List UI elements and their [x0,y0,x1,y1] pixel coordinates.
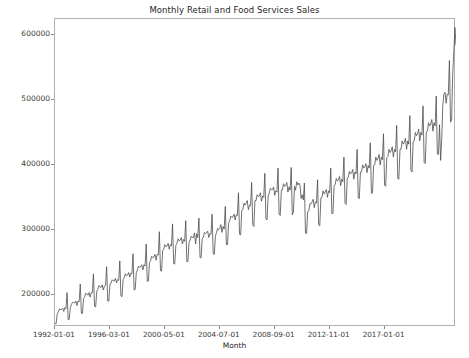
plot-area [54,18,455,326]
y-axis-tick-label: 200000 [8,289,50,298]
x-axis-tick-mark [329,326,330,329]
y-axis-label: $MM Sales [0,139,1,179]
y-axis-tick-mark [51,294,54,295]
y-axis-tick-label: 500000 [8,94,50,103]
chart-title: Monthly Retail and Food Services Sales [0,5,469,15]
x-axis-tick-mark [274,326,275,329]
x-axis-tick-mark [164,326,165,329]
x-axis-label: Month [0,341,469,350]
series-line-chart [55,19,456,327]
y-axis-tick-label: 600000 [8,29,50,38]
x-axis-tick-mark [384,326,385,329]
series-line-retail-sales [55,27,456,323]
x-axis-tick-mark [219,326,220,329]
y-axis-tick-mark [51,229,54,230]
chart-figure: Monthly Retail and Food Services Sales $… [0,0,469,358]
y-axis-tick-label: 300000 [8,224,50,233]
x-axis-tick-label: 2017-01-01 [349,330,419,339]
y-axis-tick-mark [51,34,54,35]
x-axis-tick-mark [109,326,110,329]
y-axis-tick-mark [51,99,54,100]
y-axis-tick-mark [51,164,54,165]
x-axis-tick-mark [54,326,55,329]
y-axis-tick-label: 400000 [8,159,50,168]
